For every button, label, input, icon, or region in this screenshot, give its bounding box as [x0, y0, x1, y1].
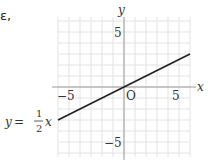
- x-tick-5: 5: [172, 89, 180, 103]
- svg-text:=: =: [14, 115, 24, 129]
- x-tick-neg5: −5: [57, 89, 75, 103]
- svg-text:y: y: [4, 115, 12, 129]
- svg-text:2: 2: [36, 123, 42, 134]
- y-tick-5: 5: [114, 26, 122, 40]
- svg-text:1: 1: [36, 108, 42, 119]
- coordinate-graph: x y O −5 5 5 −5 y = 1 2 x: [0, 0, 208, 163]
- origin-label: O: [126, 89, 136, 103]
- svg-text:x: x: [45, 115, 52, 129]
- y-tick-neg5: −5: [104, 136, 122, 150]
- y-axis-label: y: [117, 3, 125, 17]
- equation-label: y = 1 2 x: [4, 108, 52, 134]
- x-axis-label: x: [197, 80, 204, 94]
